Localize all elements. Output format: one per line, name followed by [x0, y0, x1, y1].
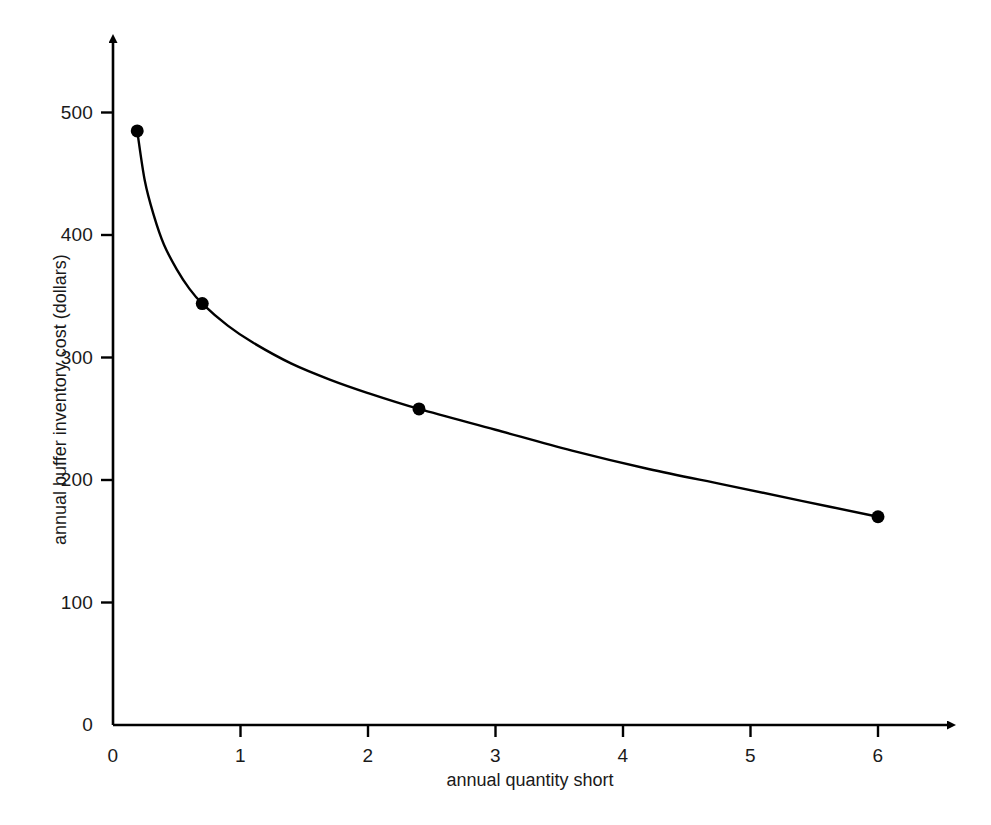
data-point-marker	[196, 297, 209, 310]
y-axis-tick-marks	[101, 113, 113, 603]
x-axis-tick-label: 6	[873, 745, 884, 767]
x-axis-tick-label: 2	[363, 745, 374, 767]
data-point-marker	[131, 124, 144, 137]
data-point-markers	[131, 124, 885, 523]
axis-group	[113, 42, 948, 725]
y-axis-tick-label: 100	[61, 592, 93, 614]
chart-figure: 0100200300400500 0123456 annual quantity…	[0, 0, 991, 825]
x-axis-tick-label: 4	[618, 745, 629, 767]
chart-plot-area	[0, 0, 991, 825]
y-axis-title: annual buffer inventory cost (dollars)	[50, 254, 71, 545]
data-series-curve	[137, 131, 878, 517]
x-axis-tick-marks	[241, 725, 879, 737]
y-axis-tick-label: 500	[61, 102, 93, 124]
x-axis-tick-label: 1	[235, 745, 246, 767]
y-axis-tick-label: 0	[82, 714, 93, 736]
data-point-marker	[872, 510, 885, 523]
data-point-marker	[413, 402, 426, 415]
x-axis-tick-label: 0	[108, 745, 119, 767]
x-axis-title: annual quantity short	[446, 770, 613, 791]
x-axis-tick-label: 5	[745, 745, 756, 767]
y-axis-tick-label: 400	[61, 224, 93, 246]
x-axis-tick-label: 3	[490, 745, 501, 767]
